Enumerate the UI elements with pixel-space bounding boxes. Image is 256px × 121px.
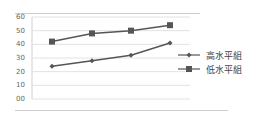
- square-marker-icon: [49, 39, 55, 45]
- legend-label-low: 低水平組: [206, 63, 242, 76]
- legend-label-high: 高水平組: [206, 49, 242, 62]
- square-marker-icon: [178, 65, 200, 73]
- diamond-marker-icon: [90, 58, 95, 63]
- diamond-marker-icon: [129, 53, 134, 58]
- square-marker-icon: [89, 30, 95, 36]
- square-marker-icon: [167, 22, 173, 28]
- series-line-1: [52, 25, 170, 41]
- square-marker-icon: [128, 28, 134, 34]
- legend: 高水平組 低水平組: [178, 48, 242, 76]
- diamond-marker-icon: [178, 51, 200, 59]
- series-line-0: [52, 43, 170, 66]
- legend-item-high: 高水平組: [178, 48, 242, 62]
- diamond-marker-icon: [50, 64, 55, 69]
- legend-item-low: 低水平組: [178, 62, 242, 76]
